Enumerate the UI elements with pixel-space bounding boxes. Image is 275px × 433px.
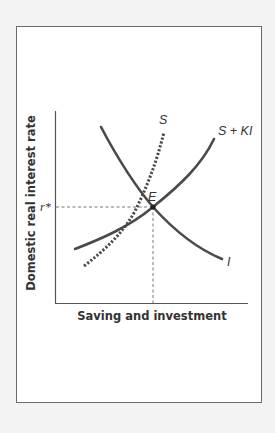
x-axis-label: Saving and investment [77,309,227,323]
diagram-figure: S S + KI I E r* Saving and investment Do… [16,26,262,403]
saving-investment-diagram: S S + KI I E r* Saving and investment Do… [17,27,261,402]
equilibrium-point [150,204,155,209]
saving-plus-capital-inflow-curve [75,139,214,249]
s-plus-ki-curve-label: S + KI [218,124,253,138]
s-curve-label: S [159,113,168,127]
r-star-label: r* [40,200,51,214]
i-curve-label: I [227,255,231,269]
equilibrium-label: E [148,190,157,204]
y-axis-label: Domestic real interest rate [24,115,38,291]
